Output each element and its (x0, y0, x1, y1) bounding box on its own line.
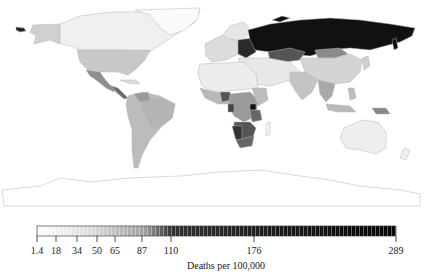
region-gabon (228, 104, 234, 112)
region-australia (340, 120, 386, 154)
region-uganda (250, 104, 256, 110)
region-alaska (30, 24, 60, 44)
region-caribbean (120, 80, 140, 84)
region-mexico (86, 70, 116, 92)
legend-tick-label: 34 (72, 245, 82, 256)
legend-tick-label: 1.4 (31, 245, 44, 256)
region-indonesia (326, 104, 356, 112)
region-madagascar (266, 122, 270, 136)
region-japan (362, 56, 370, 70)
legend-tick-label: 87 (137, 245, 147, 256)
legend-tick-label: 176 (247, 245, 262, 256)
region-antarctica (2, 170, 420, 206)
region-tanzania (250, 110, 262, 122)
legend-tick-label: 289 (389, 245, 404, 256)
region-philippines (348, 88, 356, 100)
region-new-zealand (400, 148, 410, 160)
region-southeast-asia (318, 80, 335, 102)
legend-tick-label: 18 (51, 245, 61, 256)
legend-tick-label: 110 (164, 245, 179, 256)
legend-tick-label: 50 (92, 245, 102, 256)
region-central-america (112, 86, 128, 99)
region-scandinavia (222, 22, 250, 40)
world-choropleth-map (0, 0, 429, 222)
legend-axis-title: Deaths per 100,000 (187, 260, 265, 271)
region-novaya-zemlya (272, 16, 290, 22)
region-aleutians (16, 27, 26, 32)
region-namibia (232, 126, 242, 140)
region-papua-new-guinea (372, 108, 390, 114)
legend-tick-label: 65 (110, 245, 120, 256)
